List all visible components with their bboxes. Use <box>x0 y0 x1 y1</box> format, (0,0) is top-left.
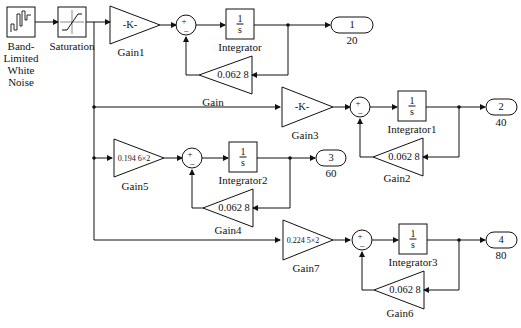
noise-label: Band- Limited White Noise <box>4 40 39 88</box>
gain7-value: 0.224 5×2 <box>287 236 320 245</box>
gain7-label: Gain7 <box>293 262 320 274</box>
gain3-value: -K- <box>295 101 310 113</box>
noise-label-line: White <box>4 64 39 76</box>
saturation-label: Saturation <box>49 40 94 52</box>
outport-1-number: 1 <box>349 19 354 31</box>
outport-4-number: 4 <box>498 234 503 246</box>
integrator3-tf: 1s <box>410 229 417 250</box>
gain1-label: Gain1 <box>118 46 145 58</box>
band-limited-white-noise-block[interactable] <box>7 7 35 37</box>
tf-den: s <box>409 107 416 117</box>
outport-2-label: 40 <box>496 116 507 128</box>
gain-value: 0.062 8 <box>217 69 249 81</box>
integrator2-tf: 1s <box>240 147 247 168</box>
integrator1-label: Integrator1 <box>388 123 437 135</box>
gain4-label: Gain4 <box>215 224 242 236</box>
tf-den: s <box>240 158 247 168</box>
outport-1-label: 20 <box>347 34 358 46</box>
tf-den: s <box>237 25 244 35</box>
outport-4-label: 80 <box>496 249 507 261</box>
noise-label-line: Noise <box>4 76 39 88</box>
gain2-value: 0.062 8 <box>388 151 420 163</box>
sum2-minus: − <box>357 107 362 119</box>
noise-label-line: Limited <box>4 52 39 64</box>
sum3-minus: − <box>189 158 194 170</box>
outport-3-label: 60 <box>326 167 337 179</box>
gain3-label: Gain3 <box>292 129 319 141</box>
gain6-label: Gain6 <box>387 307 414 319</box>
gain1-value: -K- <box>123 19 138 31</box>
integrator-tf: 1s <box>237 14 244 35</box>
outport-2-number: 2 <box>498 101 503 113</box>
sum1-minus: − <box>183 25 188 37</box>
noise-label-line: Band- <box>4 40 39 52</box>
tf-den: s <box>410 240 417 250</box>
integrator2-label: Integrator2 <box>219 174 268 186</box>
outport-3-number: 3 <box>328 152 333 164</box>
gain5-label: Gain5 <box>122 180 149 192</box>
sum4-minus: − <box>359 240 364 252</box>
integrator-label: Integrator <box>218 41 261 53</box>
gain-label: Gain <box>202 96 223 108</box>
integrator3-label: Integrator3 <box>389 256 438 268</box>
gain6-value: 0.062 8 <box>389 284 421 296</box>
gain2-label: Gain2 <box>384 172 411 184</box>
integrator1-tf: 1s <box>409 96 416 117</box>
gain4-value: 0.062 8 <box>218 202 250 214</box>
gain5-value: 0.194 6×2 <box>118 154 151 163</box>
